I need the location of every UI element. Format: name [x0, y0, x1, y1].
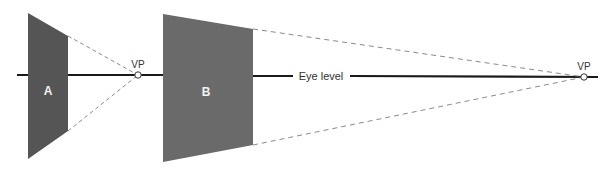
vanishing-point-1-marker	[135, 72, 141, 78]
convergence-line-a-top	[68, 36, 138, 75]
eye-level-line-right	[350, 76, 598, 77]
perspective-diagram: A B Eye level VP VP	[0, 0, 615, 173]
vanishing-point-1-label: VP	[131, 59, 145, 70]
eye-level-label: Eye level	[299, 70, 344, 82]
convergence-line-b-bottom	[253, 77, 584, 145]
plane-a-label: A	[44, 84, 53, 98]
vanishing-point-2-label: VP	[577, 61, 591, 72]
vanishing-point-2-marker	[581, 74, 587, 80]
convergence-line-a-bottom	[68, 75, 138, 131]
diagram-canvas: A B Eye level VP VP	[0, 0, 615, 173]
plane-b-label: B	[202, 85, 211, 99]
